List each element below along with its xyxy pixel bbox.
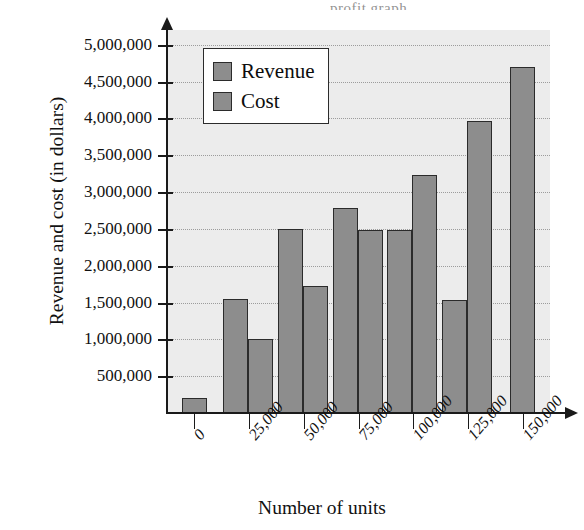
y-tick-mark	[158, 118, 173, 120]
y-tick-label: 1,000,000	[0, 329, 158, 349]
y-tick-label: 1,500,000	[0, 293, 158, 313]
y-tick-mark	[158, 339, 173, 341]
bar-chart: profit graph Revenue and cost (in dollar…	[0, 0, 584, 530]
bar-cost	[412, 175, 437, 413]
y-tick-mark	[158, 303, 173, 305]
bar-cost	[467, 121, 492, 413]
x-axis-line	[166, 412, 568, 414]
legend-swatch-cost	[213, 92, 232, 111]
y-tick-mark	[158, 155, 173, 157]
y-tick-mark	[158, 266, 173, 268]
y-tick-label: 5,000,000	[0, 35, 158, 55]
y-tick-label: 2,000,000	[0, 256, 158, 276]
y-tick-label: 4,000,000	[0, 108, 158, 128]
gridline	[167, 155, 550, 156]
y-tick-label: 2,500,000	[0, 219, 158, 239]
y-tick-mark	[158, 229, 173, 231]
bar-revenue	[223, 299, 248, 413]
legend-swatch-revenue	[213, 62, 232, 81]
y-tick-mark	[158, 82, 173, 84]
gridline	[167, 192, 550, 193]
y-axis-arrowhead-icon	[161, 17, 173, 30]
bar-cost	[358, 230, 383, 413]
cropped-chart-title: profit graph	[330, 0, 500, 10]
x-tick-label: 0	[190, 426, 209, 444]
bar-revenue	[333, 208, 358, 413]
legend-label-cost: Cost	[241, 89, 280, 114]
bar-cost	[510, 67, 535, 413]
legend-item-revenue: Revenue	[213, 56, 314, 86]
x-axis-title: Number of units	[0, 497, 584, 519]
legend-label-revenue: Revenue	[241, 59, 314, 84]
bar-revenue	[387, 230, 412, 413]
gridline	[167, 45, 550, 46]
y-tick-mark	[158, 45, 173, 47]
y-tick-mark	[158, 376, 173, 378]
y-tick-label: 3,000,000	[0, 182, 158, 202]
x-axis-arrowhead-icon	[565, 407, 578, 419]
legend-item-cost: Cost	[213, 86, 314, 116]
bar-cost	[182, 398, 207, 413]
bar-revenue	[278, 229, 303, 413]
y-tick-mark	[158, 192, 173, 194]
y-tick-label: 500,000	[0, 366, 158, 386]
chart-legend: Revenue Cost	[203, 48, 329, 124]
y-tick-label: 4,500,000	[0, 72, 158, 92]
y-axis-line	[166, 28, 168, 414]
y-axis-title: Revenue and cost (in dollars)	[46, 46, 68, 376]
bar-cost	[303, 286, 328, 413]
y-tick-label: 3,500,000	[0, 145, 158, 165]
